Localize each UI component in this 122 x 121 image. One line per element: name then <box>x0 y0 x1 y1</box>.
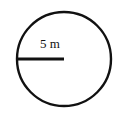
circle-diagram: 5 m <box>0 0 122 121</box>
radius-label: 5 m <box>40 36 60 51</box>
